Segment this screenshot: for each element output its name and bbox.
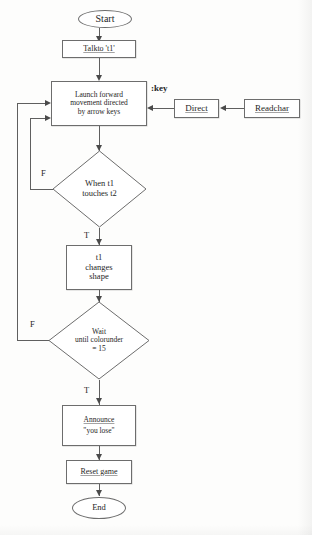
node-wait-colorunder: Wait until colorunder = 15 <box>48 301 150 380</box>
node-talk-to-t1: Talkto 't1' <box>62 40 136 58</box>
node-end: End <box>72 497 126 519</box>
node-t1-changes-shape: t1 changes shape <box>66 245 132 290</box>
edge-decision1-false-vertical <box>30 118 31 189</box>
node-talk-to-t1-label: Talkto 't1' <box>83 45 114 54</box>
edge-label-colorunder-false: F <box>30 320 35 329</box>
arrowhead-direct-to-launch <box>147 105 153 111</box>
node-start: Start <box>78 10 132 28</box>
node-reset-game-label: Reset game <box>80 468 117 477</box>
node-reset-game: Reset game <box>66 460 132 484</box>
node-when-t1-touches-t2-label: When t1 touches t2 <box>64 179 134 198</box>
edge-decision1-false-horizontal <box>30 189 53 190</box>
node-announce-line2: "you lose" <box>83 427 114 435</box>
node-t1-changes-shape-line3: shape <box>89 272 108 282</box>
edge-readchar-to-direct <box>225 108 244 109</box>
node-when-t1-touches-t2: When t1 touches t2 <box>52 150 147 228</box>
edge-label-colorunder-true: T <box>84 386 89 395</box>
edge-direct-to-launch <box>152 108 174 109</box>
arrowhead-decision2-true <box>96 398 102 404</box>
node-when-t1-touches-t2-line2: touches t2 <box>64 189 134 199</box>
node-readchar: Readchar <box>244 99 300 118</box>
edge-decision2-false-return <box>17 103 46 104</box>
node-direct: Direct <box>174 99 219 118</box>
edge-decision1-false-return <box>30 118 46 119</box>
edge-label-key: :key <box>151 84 168 93</box>
flowchart-canvas: Start Talkto 't1' Launch forward movemen… <box>0 0 312 535</box>
node-wait-colorunder-label: Wait until colorunder = 15 <box>61 328 136 353</box>
edge-label-touches-true: T <box>84 231 89 240</box>
arrowhead-reset-to-end <box>96 490 102 496</box>
edge-decision2-false-vertical <box>17 103 18 340</box>
node-start-label: Start <box>96 13 115 24</box>
node-direct-label: Direct <box>185 103 208 113</box>
arrowhead-decision2-false <box>45 100 51 106</box>
node-launch-movement-line3: by arrow keys <box>78 108 121 116</box>
node-launch-movement: Launch forward movement directed by arro… <box>51 81 147 126</box>
node-announce-line1: Announce <box>84 416 115 424</box>
arrowhead-decision1-false <box>45 115 51 121</box>
node-wait-colorunder-line3: = 15 <box>61 345 136 353</box>
node-announce: Announce "you lose" <box>62 405 136 446</box>
edge-decision2-false-horizontal <box>17 340 49 341</box>
node-end-label: End <box>92 503 106 513</box>
arrowhead-readchar-to-direct <box>220 105 226 111</box>
node-readchar-label: Readchar <box>255 103 289 113</box>
edge-label-touches-false: F <box>41 169 46 178</box>
